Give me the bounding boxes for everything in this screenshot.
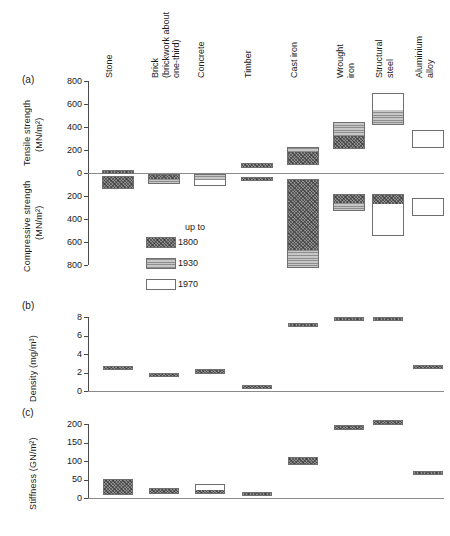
bar-stiffness-stone-segment-1800 [104, 480, 132, 495]
panel-c-tick-100 [84, 461, 88, 462]
bar-density-aluminium-alloy-segment-1800 [414, 366, 442, 368]
bar-stiffness-wrought-iron [334, 425, 364, 430]
panel-a-ticklabel-800-tensile: 800 [56, 77, 82, 86]
bar-compressive-wrought-iron-segment-1800 [334, 195, 364, 203]
column-header-cast-iron: Cast iron [289, 18, 300, 78]
panel-a-tick-600-compressive [84, 242, 88, 243]
panel-c-tick-150 [84, 443, 88, 444]
bar-density-stone [103, 366, 133, 370]
bar-tensile-timber [241, 163, 273, 168]
panel-a-tick-800-tensile [84, 81, 88, 82]
materials-properties-figure: (a)(b)(c)StoneBrick (brickwork about one… [0, 0, 450, 536]
panel-b-axis-title: Density (mg/m³) [28, 310, 38, 402]
legend-label-1800: 1800 [178, 238, 198, 247]
bar-density-timber-segment-1800 [243, 386, 271, 388]
bar-stiffness-structural-steel-segment-1800 [374, 421, 402, 425]
panel-b-ticklabel-6: 6 [56, 331, 82, 340]
panel-b-tick-0 [84, 391, 88, 392]
panel-c-baseline [88, 498, 444, 499]
panel-b-ticklabel-8: 8 [56, 313, 82, 322]
bar-stiffness-stone [103, 479, 133, 495]
bar-density-stone-segment-1800 [104, 367, 132, 370]
bar-stiffness-concrete-segment-1800 [196, 490, 224, 494]
panel-a-tick-400-compressive [84, 219, 88, 220]
bar-stiffness-brick [149, 488, 179, 494]
bar-tensile-wrought-iron-segment-1800 [334, 136, 364, 149]
bar-compressive-aluminium-alloy-segment-1970 [413, 199, 443, 215]
panel-a-zero-line [88, 173, 444, 174]
panel-c-ticklabel-100: 100 [56, 457, 82, 466]
bar-tensile-wrought-iron [333, 122, 365, 149]
bar-stiffness-structural-steel [373, 420, 403, 425]
panel-a-tick-200-compressive [84, 196, 88, 197]
bar-density-aluminium-alloy [413, 365, 443, 369]
bar-stiffness-aluminium-alloy [413, 471, 443, 475]
bar-density-structural-steel-segment-1800 [374, 318, 402, 321]
column-header-brick: Brick (brickwork about one-third) [150, 8, 182, 78]
bar-compressive-cast-iron [287, 179, 319, 269]
panel-a-ticklabel-400-compressive: 400 [56, 215, 82, 224]
panel-c-y-axis [88, 424, 89, 498]
bar-compressive-concrete-segment-1970 [195, 180, 225, 185]
panel-c-ticklabel-150: 150 [56, 438, 82, 447]
panel-a-ticklabel-600-compressive: 600 [56, 238, 82, 247]
panel-b-tick-4 [84, 354, 88, 355]
column-header-wrought-iron: Wrought iron [335, 18, 356, 78]
panel-a-tensile-axis-title: Tensile strength [22, 80, 32, 166]
panel-b-baseline [88, 391, 444, 392]
column-header-timber: Timber [243, 18, 254, 78]
legend-label-1930: 1930 [178, 259, 198, 268]
bar-compressive-stone-segment-1800 [103, 177, 133, 189]
panel-a-ticklabel-200-compressive: 200 [56, 192, 82, 201]
bar-stiffness-wrought-iron-segment-1800 [335, 426, 363, 430]
bar-tensile-stone [102, 170, 134, 174]
bar-tensile-structural-steel [372, 93, 404, 125]
bar-compressive-aluminium-alloy [412, 198, 444, 215]
bar-density-cast-iron [288, 323, 318, 327]
panel-a-tick-200-tensile [84, 150, 88, 151]
panel-b-tick-2 [84, 373, 88, 374]
bar-compressive-concrete [194, 174, 226, 186]
bar-compressive-wrought-iron [333, 194, 365, 211]
bar-stiffness-concrete-segment-1970 [196, 485, 224, 490]
bar-tensile-timber-segment-1800 [242, 164, 272, 168]
panel-c-ticklabel-0: 0 [56, 494, 82, 503]
legend-entry-1930: 1930 [146, 258, 198, 269]
legend-swatch-1800 [146, 237, 176, 248]
bar-compressive-timber-segment-1800 [242, 178, 272, 181]
panel-a-tick-0-tensile [84, 173, 88, 174]
bar-compressive-brick-segment-1930 [149, 179, 179, 184]
bar-stiffness-brick-segment-1800 [150, 489, 178, 494]
bar-stiffness-concrete [195, 484, 225, 494]
bar-compressive-structural-steel [372, 194, 404, 237]
bar-tensile-cast-iron [287, 147, 319, 165]
column-header-aluminium-alloy: Aluminium alloy [414, 16, 435, 78]
bar-tensile-wrought-iron-segment-1930 [334, 123, 364, 136]
panel-c-tick-200 [84, 424, 88, 425]
bar-tensile-stone-segment-1800 [103, 171, 133, 173]
panel-b-ticklabel-4: 4 [56, 350, 82, 359]
legend-entry-1800: 1800 [146, 237, 198, 248]
legend-label-1970: 1970 [178, 280, 198, 289]
legend-title: up to [185, 222, 205, 232]
panel-c-tick-0 [84, 498, 88, 499]
legend-swatch-1970 [146, 279, 176, 290]
bar-compressive-brick [148, 174, 180, 184]
panel-a-ticklabel-400-tensile: 400 [56, 123, 82, 132]
bar-compressive-cast-iron-segment-1800 [288, 180, 318, 250]
panel-a-ticklabel-0-tensile: 0 [56, 169, 82, 178]
panel-b-tick-8 [84, 317, 88, 318]
panel-a-ticklabel-800-compressive: 800 [56, 261, 82, 270]
column-header-structural-steel: Structural steel [374, 16, 395, 78]
panel-c-axis-title: Stiffness (GN/m²) [28, 416, 38, 510]
bar-tensile-aluminium-alloy [412, 130, 444, 147]
panel-c-ticklabel-50: 50 [56, 475, 82, 484]
bar-density-concrete [195, 369, 225, 374]
column-header-concrete: Concrete [196, 18, 207, 78]
panel-a-compressive-axis-title: Compressive strength [22, 168, 32, 272]
bar-compressive-cast-iron-segment-1930 [288, 250, 318, 269]
bar-density-cast-iron-segment-1800 [289, 324, 317, 327]
bar-density-brick [149, 373, 179, 377]
legend-swatch-1930 [146, 258, 176, 269]
panel-a-tick-800-compressive [84, 265, 88, 266]
